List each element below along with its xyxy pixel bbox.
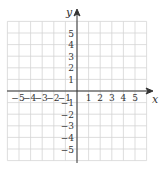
x-tick-labels: −5−4−3−2−112345 xyxy=(11,93,138,103)
y-tick-label: 5 xyxy=(68,29,74,39)
y-tick-label: −5 xyxy=(61,145,75,155)
x-tick-label: 5 xyxy=(132,93,138,103)
x-tick-label: 1 xyxy=(86,93,92,103)
y-tick-label: −1 xyxy=(61,98,74,108)
y-tick-label: 2 xyxy=(68,63,74,73)
y-tick-label: 3 xyxy=(68,52,74,62)
y-tick-label: −4 xyxy=(61,133,75,143)
y-tick-label: −3 xyxy=(61,121,75,131)
x-axis-label: x xyxy=(152,93,159,106)
y-tick-label: −2 xyxy=(61,110,74,120)
axes xyxy=(7,9,153,163)
y-tick-label: 4 xyxy=(68,40,74,50)
y-tick-label: 1 xyxy=(68,75,74,85)
x-tick-label: 4 xyxy=(121,93,127,103)
y-axis-label: y xyxy=(65,6,73,19)
coordinate-plane: x y −5−4−3−2−112345 54321−1−2−3−4−5 xyxy=(0,0,163,173)
x-tick-label: 2 xyxy=(97,93,103,103)
x-tick-label: 3 xyxy=(109,93,115,103)
